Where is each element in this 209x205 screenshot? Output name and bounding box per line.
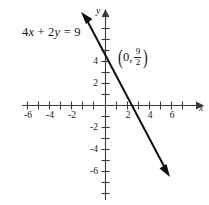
y-axis	[102, 9, 110, 200]
line-arrowhead-lower-right	[160, 164, 171, 177]
x-tick-label-4: 4	[144, 110, 156, 120]
point-separator: ,	[129, 51, 132, 64]
y-tick-label--6: -6	[82, 166, 98, 176]
equation-var-x: x	[28, 25, 34, 39]
equation-var-y: y	[55, 25, 61, 39]
x-axis	[22, 102, 204, 110]
point-annotation: ( 0 , 9 2 )	[117, 47, 149, 67]
equation-equals: =	[64, 25, 71, 39]
equation-annotation: 4x + 2y = 9	[22, 25, 81, 40]
left-paren: (	[118, 49, 123, 65]
fraction-numerator: 9	[135, 47, 142, 56]
x-tick-label--2: -2	[65, 110, 79, 120]
fraction-denominator: 2	[135, 58, 142, 67]
y-axis-arrowhead	[102, 9, 110, 17]
y-axis-label: y	[96, 6, 100, 16]
x-axis-label: x	[199, 103, 203, 113]
y-tick-label--4: -4	[82, 144, 98, 154]
right-paren: )	[143, 49, 148, 65]
y-tick-label-2: 2	[86, 78, 98, 88]
x-tick-label-6: 6	[166, 110, 178, 120]
graph-figure: 4x + 2y = 9 ( 0 , 9 2 ) x y -6 -4 -2 2 4…	[0, 0, 209, 205]
line-arrowhead-upper-left	[81, 12, 93, 24]
y-tick-label--2: -2	[82, 122, 98, 132]
equation-plus: +	[38, 25, 45, 39]
y-tick-label-4: 4	[86, 56, 98, 66]
x-tick-label-2: 2	[122, 110, 134, 120]
x-tick-label--4: -4	[43, 110, 57, 120]
point-y-fraction: 9 2	[134, 47, 141, 67]
equation-constant: 9	[74, 25, 80, 39]
x-tick-label--6: -6	[21, 110, 35, 120]
